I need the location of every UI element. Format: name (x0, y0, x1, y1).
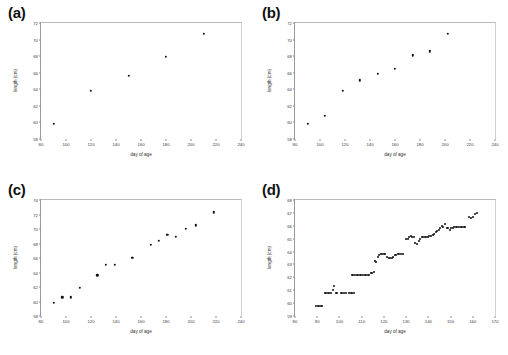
x-tick-label: 180 (162, 319, 169, 324)
x-tick-label: 220 (212, 319, 219, 324)
x-tick-label: 180 (162, 142, 169, 147)
data-point (166, 234, 168, 236)
data-point (332, 289, 334, 291)
scatter-points-c (41, 200, 241, 316)
y-axis-label-d: length (cm) (264, 199, 274, 316)
y-tick-label: 70 (33, 227, 38, 232)
plot-area-c: 5860626466687072748010012014016018020022… (40, 199, 242, 316)
y-tick-label: 58 (287, 137, 292, 142)
x-axis-label-c: day of age (40, 329, 242, 334)
x-tick-label: 200 (187, 142, 194, 147)
data-point (446, 33, 448, 35)
y-tick-mark (39, 200, 41, 201)
data-point (336, 292, 338, 294)
data-point (185, 228, 187, 230)
x-tick-label: 140 (366, 142, 373, 147)
y-tick-label: 60 (287, 120, 292, 125)
y-axis-label-a: length (cm) (10, 22, 20, 139)
x-tick-label: 160 (469, 319, 476, 324)
y-tick-label: 66 (287, 223, 292, 228)
x-tick-mark (166, 139, 167, 141)
x-tick-label: 240 (237, 142, 244, 147)
x-tick-mark (141, 139, 142, 141)
y-tick-mark (293, 303, 295, 304)
data-point (411, 54, 413, 56)
data-point (61, 296, 63, 298)
scatter-points-d (295, 200, 495, 316)
data-point (306, 123, 308, 125)
y-tick-label: 60 (33, 120, 38, 125)
panel-label-b: (b) (262, 4, 280, 21)
data-point (359, 79, 361, 81)
data-point (330, 292, 332, 294)
y-tick-label: 67 (287, 210, 292, 215)
data-point (345, 292, 347, 294)
figure-caption (4, 347, 504, 355)
data-point (150, 244, 152, 246)
x-tick-label: 140 (425, 319, 432, 324)
x-tick-mark (428, 316, 429, 318)
y-tick-label: 62 (33, 103, 38, 108)
y-axis-label-c: length (cm) (10, 199, 20, 316)
x-tick-label: 100 (62, 142, 69, 147)
x-tick-label: 100 (62, 319, 69, 324)
x-tick-mark (470, 139, 471, 141)
y-tick-mark (39, 272, 41, 273)
data-point (476, 212, 478, 214)
x-tick-mark (91, 316, 92, 318)
x-axis-label-b: day of age (294, 152, 496, 157)
data-point (321, 305, 323, 307)
data-point (105, 263, 107, 265)
data-point (472, 216, 474, 218)
x-tick-mark (472, 316, 473, 318)
figure-panel-grid: (a) length (cm) 586062646668707280100120… (0, 0, 508, 355)
x-tick-label: 140 (112, 319, 119, 324)
y-tick-label: 65 (287, 236, 292, 241)
x-tick-label: 200 (187, 319, 194, 324)
data-point (52, 123, 54, 125)
y-tick-mark (39, 56, 41, 57)
x-tick-mark (450, 316, 451, 318)
x-tick-mark (295, 316, 296, 318)
x-tick-label: 80 (293, 319, 298, 324)
y-tick-mark (293, 56, 295, 57)
x-tick-mark (361, 316, 362, 318)
y-tick-mark (39, 39, 41, 40)
x-tick-mark (445, 139, 446, 141)
y-tick-label: 72 (33, 212, 38, 217)
data-point (131, 257, 133, 259)
x-tick-mark (395, 139, 396, 141)
x-tick-mark (345, 139, 346, 141)
data-point (439, 227, 441, 229)
data-point (464, 226, 466, 228)
y-tick-mark (293, 212, 295, 213)
y-tick-label: 61 (287, 288, 292, 293)
data-point (165, 56, 167, 58)
y-tick-label: 66 (287, 70, 292, 75)
y-tick-mark (39, 229, 41, 230)
y-tick-label: 62 (33, 285, 38, 290)
x-tick-mark (383, 316, 384, 318)
x-tick-label: 220 (212, 142, 219, 147)
y-tick-label: 63 (287, 262, 292, 267)
x-tick-label: 80 (39, 142, 44, 147)
data-point (114, 263, 116, 265)
data-point (79, 287, 81, 289)
x-tick-mark (116, 139, 117, 141)
data-point (333, 285, 335, 287)
x-tick-label: 160 (391, 142, 398, 147)
x-tick-mark (41, 316, 42, 318)
x-tick-label: 170 (491, 319, 498, 324)
x-tick-mark (495, 139, 496, 141)
x-tick-mark (216, 316, 217, 318)
x-tick-mark (41, 139, 42, 141)
y-tick-label: 72 (33, 21, 38, 26)
x-tick-label: 180 (416, 142, 423, 147)
y-tick-label: 64 (287, 87, 292, 92)
y-tick-label: 70 (33, 37, 38, 42)
y-tick-label: 66 (33, 70, 38, 75)
x-tick-label: 120 (380, 319, 387, 324)
y-tick-mark (293, 72, 295, 73)
x-tick-label: 160 (137, 319, 144, 324)
x-axis-label-a: day of age (40, 152, 242, 157)
